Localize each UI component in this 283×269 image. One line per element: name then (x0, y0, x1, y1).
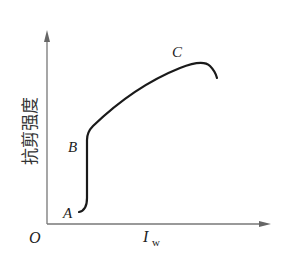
y-axis-arrow-icon (44, 30, 50, 42)
origin-label: O (29, 229, 41, 246)
y-axis (44, 30, 50, 224)
point-c-label: C (172, 44, 183, 60)
y-axis-label: 抗剪强度 (20, 97, 40, 165)
shear-strength-curve (79, 63, 217, 212)
shear-strength-chart: A B C O I w 抗剪强度 (0, 0, 283, 269)
x-axis-label-subscript: w (152, 236, 160, 248)
x-axis-arrow-icon (259, 221, 271, 227)
x-axis (47, 221, 271, 227)
x-axis-label: I (142, 228, 149, 245)
point-a-label: A (62, 205, 73, 221)
point-b-label: B (68, 139, 77, 155)
